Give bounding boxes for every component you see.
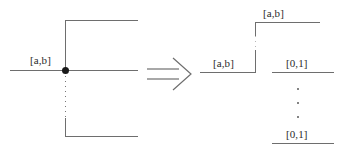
left-upper-vertical-edge [65,20,66,70]
right-top-label: [a,b] [263,8,284,19]
figure-canvas: [a,b] [a,b] [a,b] [0,1] [0,0,337,155]
left-main-horizontal-edge [10,70,138,71]
right-lower-right-label: [0,1] [286,129,308,140]
branch-node-dot [62,67,69,74]
right-left-horizontal-edge [200,72,256,73]
vertical-ellipsis [296,88,300,118]
left-top-horizontal-edge [65,20,138,21]
implies-arrow-svg [145,55,197,97]
right-left-label: [a,b] [213,58,234,69]
ellipsis-dot [297,88,299,90]
right-upper-right-horizontal-edge [272,72,334,73]
left-junction-label: [a,b] [30,55,51,66]
left-lower-vertical-dotted-edge [65,76,66,118]
right-riser-dotted-segment [255,36,256,50]
ellipsis-dot [297,102,299,104]
implies-arrow [145,55,197,101]
ellipsis-dot [297,116,299,118]
right-top-horizontal-edge [255,22,320,23]
right-upper-right-label: [0,1] [286,58,308,69]
right-lower-right-horizontal-edge [272,143,334,144]
right-riser-upper-segment [255,22,256,36]
right-riser-lower-segment [255,50,256,72]
left-bottom-horizontal-edge [65,136,138,137]
left-vertical-tail-edge [65,118,66,136]
